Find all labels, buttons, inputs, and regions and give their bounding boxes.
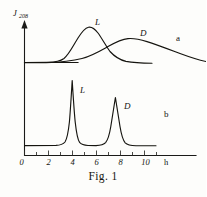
panel-a-label-L: L — [94, 17, 100, 27]
x-axis-ticks — [25, 151, 157, 156]
x-axis-unit-label: h — [164, 157, 169, 167]
y-axis-label: J 208 — [13, 8, 28, 19]
y-axis-label-main: J — [13, 8, 18, 18]
panel-b-curve — [25, 81, 157, 146]
panel-b-label-D: D — [123, 101, 131, 111]
panel-label-a: a — [176, 33, 180, 43]
panel-a-curve-L — [25, 27, 153, 63]
x-tick-label-8: 8 — [118, 157, 123, 167]
figure-container: J 208 L D a L D b — [0, 0, 206, 197]
y-axis-group — [21, 20, 27, 155]
x-tick-label-6: 6 — [94, 157, 99, 167]
panel-a-label-D: D — [139, 28, 147, 38]
x-tick-label-0: 0 — [19, 157, 24, 167]
y-axis-arrow-icon — [21, 20, 27, 29]
x-tick-label-10: 10 — [141, 157, 150, 167]
panel-b: L D b — [25, 81, 170, 146]
x-axis-group: 0 2 4 6 8 10 h — [19, 151, 196, 168]
x-axis-tick-labels: 0 2 4 6 8 10 — [19, 157, 150, 167]
panel-b-label-L: L — [79, 85, 85, 95]
x-tick-label-4: 4 — [70, 157, 75, 167]
figure-plot: J 208 L D a L D b — [0, 0, 206, 197]
figure-caption: Fig. 1 — [0, 170, 206, 182]
panel-label-b: b — [164, 109, 169, 119]
y-axis-label-subscript: 208 — [19, 13, 28, 19]
panel-a: L D a — [25, 17, 207, 64]
x-tick-label-2: 2 — [46, 157, 51, 167]
